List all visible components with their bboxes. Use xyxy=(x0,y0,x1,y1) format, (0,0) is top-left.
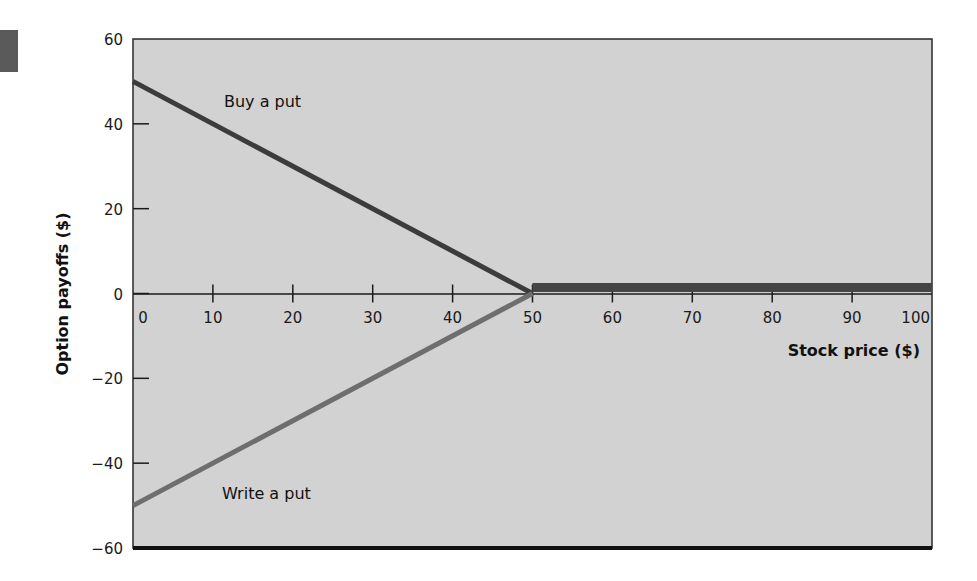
chart: 0102030405060708090100 6040200−20−40−60 … xyxy=(0,0,977,581)
annotation-write-a-put: Write a put xyxy=(222,484,311,503)
x-tick-label: 0 xyxy=(138,309,148,327)
x-tick-label: 10 xyxy=(203,309,222,327)
x-tick-label: 70 xyxy=(683,309,702,327)
x-tick-label: 30 xyxy=(363,309,382,327)
y-tick-label: 0 xyxy=(113,286,123,304)
x-axis-title: Stock price ($) xyxy=(788,341,920,360)
y-tick-label: 60 xyxy=(104,31,123,49)
x-tick-label: 20 xyxy=(283,309,302,327)
annotation-buy-a-put: Buy a put xyxy=(224,92,301,111)
x-tick-label: 100 xyxy=(901,309,930,327)
x-tick-label: 80 xyxy=(763,309,782,327)
x-tick-label: 50 xyxy=(523,309,542,327)
y-tick-label: −40 xyxy=(91,455,123,473)
y-tick-label: −20 xyxy=(91,370,123,388)
y-tick-label: 40 xyxy=(104,116,123,134)
y-tick-label: 20 xyxy=(104,201,123,219)
x-tick-label: 60 xyxy=(603,309,622,327)
y-tick-label: −60 xyxy=(91,540,123,558)
x-tick-label: 90 xyxy=(843,309,862,327)
x-tick-label: 40 xyxy=(443,309,462,327)
y-axis-title: Option payoffs ($) xyxy=(53,212,72,375)
